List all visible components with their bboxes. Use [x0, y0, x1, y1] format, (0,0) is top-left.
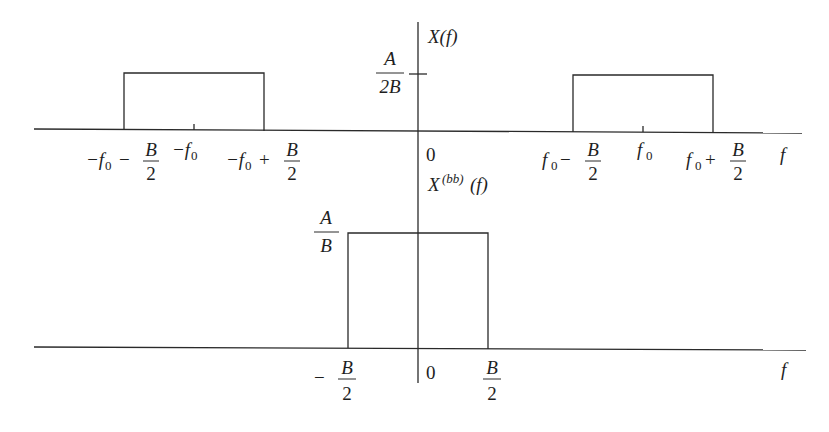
top-right-center-label: f 0: [637, 139, 653, 163]
bottom-y-label: X (bb) (f): [427, 171, 488, 196]
svg-text:−f: −f: [226, 149, 247, 170]
svg-text:0: 0: [245, 158, 252, 173]
bottom-frequency-axis: [34, 347, 806, 350]
svg-text:2: 2: [146, 163, 156, 184]
svg-text:X: X: [427, 174, 441, 195]
svg-text:B: B: [486, 357, 498, 378]
top-amplitude-label: A 2B: [376, 48, 404, 97]
svg-text:0: 0: [551, 158, 558, 173]
top-origin-label: 0: [426, 144, 436, 165]
svg-text:(f): (f): [470, 174, 488, 196]
svg-text:+: +: [705, 149, 716, 170]
svg-text:B: B: [286, 139, 298, 160]
svg-text:−f: −f: [172, 139, 193, 160]
svg-text:f: f: [542, 149, 550, 170]
top-left-lower-edge-label: −f 0 − B 2: [86, 139, 159, 184]
svg-text:−: −: [314, 367, 325, 388]
top-left-center-label: −f 0: [172, 139, 198, 163]
svg-text:A: A: [318, 207, 332, 228]
top-y-label: X(f): [427, 26, 458, 48]
svg-text:B: B: [732, 139, 744, 160]
svg-text:f: f: [637, 139, 645, 160]
svg-text:2: 2: [588, 163, 598, 184]
svg-text:B: B: [320, 235, 332, 256]
top-right-lower-edge-label: f 0 − B 2: [542, 139, 601, 184]
svg-text:2: 2: [733, 163, 743, 184]
spectrum-diagram: X(f) A 2B 0 f −f 0 − B 2 −f 0 −f 0 + B 2…: [0, 0, 829, 432]
svg-text:−: −: [119, 149, 130, 170]
top-right-upper-edge-label: f 0 + B 2: [686, 139, 746, 184]
svg-text:f: f: [686, 149, 694, 170]
bottom-x-label: f: [781, 359, 789, 380]
svg-text:B: B: [587, 139, 599, 160]
svg-text:2: 2: [287, 163, 297, 184]
svg-text:0: 0: [695, 158, 702, 173]
bottom-lower-edge-label: − B 2: [314, 357, 356, 404]
svg-text:0: 0: [191, 148, 198, 163]
bottom-upper-edge-label: B 2: [483, 357, 501, 404]
svg-text:0: 0: [646, 148, 653, 163]
svg-text:+: +: [259, 149, 270, 170]
svg-text:(bb): (bb): [442, 171, 464, 186]
top-x-label: f: [780, 144, 788, 165]
top-right-band-rect: [573, 75, 713, 133]
svg-text:A: A: [382, 48, 396, 69]
top-left-band-rect: [124, 73, 264, 131]
svg-text:B: B: [341, 357, 353, 378]
svg-text:−f: −f: [86, 149, 107, 170]
top-left-upper-edge-label: −f 0 + B 2: [226, 139, 300, 184]
svg-text:0: 0: [105, 158, 112, 173]
svg-text:B: B: [145, 139, 157, 160]
svg-text:2B: 2B: [379, 76, 401, 97]
svg-text:2: 2: [487, 383, 497, 404]
svg-text:2: 2: [342, 383, 352, 404]
bottom-amplitude-label: A B: [314, 207, 339, 256]
bottom-origin-label: 0: [426, 362, 436, 383]
svg-text:−: −: [560, 149, 571, 170]
